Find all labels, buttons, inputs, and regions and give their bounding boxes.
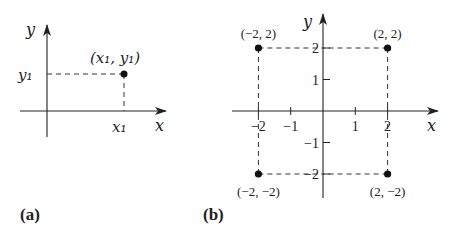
point-label: (−2, −2) bbox=[237, 184, 280, 199]
x-tick-label: −1 bbox=[283, 119, 298, 134]
y-tick-label: −2 bbox=[304, 167, 319, 182]
panel-a: (x₁, y₁) y₁ x₁ x y (a) bbox=[17, 20, 166, 224]
point-label: (2, 2) bbox=[374, 26, 402, 41]
panel-b-label: (b) bbox=[203, 205, 224, 224]
y-tick-label: y₁ bbox=[17, 66, 33, 84]
y-tick-label: 1 bbox=[312, 73, 319, 88]
coordinate-figure: (x₁, y₁) y₁ x₁ x y (a) x y −2−112 21−1−2… bbox=[0, 0, 452, 245]
y-tick-label: −1 bbox=[304, 136, 319, 151]
x-tick-label: 2 bbox=[384, 119, 391, 134]
y-tick-label: 2 bbox=[312, 41, 319, 56]
x-tick-label: −2 bbox=[251, 119, 266, 134]
point-label: (−2, 2) bbox=[241, 26, 277, 41]
x-tick-label: 1 bbox=[352, 119, 359, 134]
y-axis-label: y bbox=[25, 20, 36, 39]
point bbox=[255, 170, 262, 177]
x-axis-label: x bbox=[427, 116, 436, 135]
point bbox=[384, 170, 391, 177]
x-axis-label: x bbox=[155, 116, 164, 135]
x-tick-label: x₁ bbox=[112, 118, 126, 136]
point-label: (x₁, y₁) bbox=[90, 49, 140, 67]
points: (−2, 2)(2, 2)(−2, −2)(2, −2) bbox=[237, 26, 405, 199]
point-x1-y1 bbox=[121, 71, 128, 78]
panel-a-label: (a) bbox=[20, 205, 40, 224]
point bbox=[255, 44, 262, 51]
point-label: (2, −2) bbox=[370, 184, 406, 199]
y-axis-label: y bbox=[302, 12, 313, 31]
panel-b: x y −2−112 21−1−2 (−2, 2)(2, 2)(−2, −2)(… bbox=[203, 12, 438, 224]
point bbox=[384, 44, 391, 51]
